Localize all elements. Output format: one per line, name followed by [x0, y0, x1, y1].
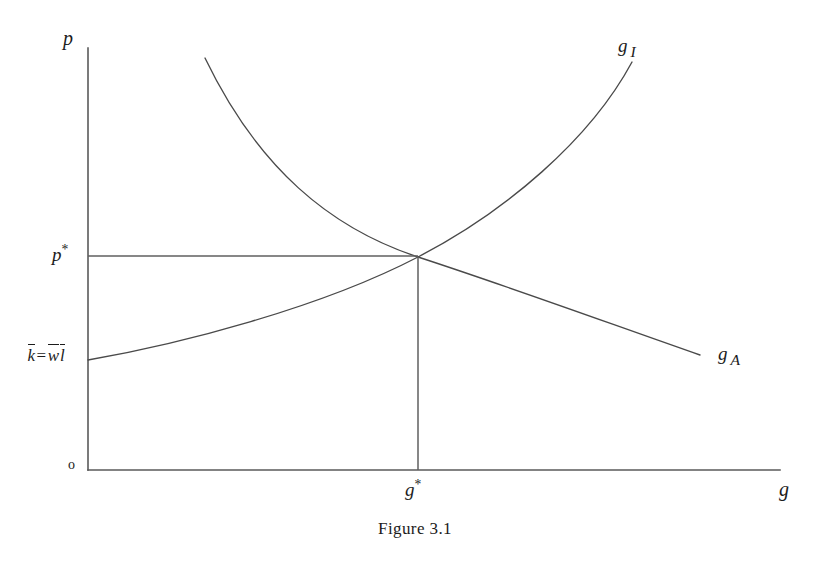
curve-label-g-a: gA	[718, 344, 740, 367]
curve-g-i-subscript: I	[628, 43, 636, 60]
p-star-superscript: *	[62, 242, 69, 257]
k-equals-w-l-label: k=wl	[27, 347, 65, 364]
curve-g-i-base: g	[618, 35, 628, 56]
equals-symbol: =	[36, 346, 48, 365]
curve-g-a-base: g	[718, 343, 728, 364]
p-star-base: p	[52, 244, 62, 265]
l-bar-symbol: l	[59, 347, 65, 364]
g-star-base: g	[405, 479, 415, 500]
curve-g-i	[88, 62, 632, 360]
g-star-label: g*	[405, 478, 421, 499]
x-axis-label: g	[779, 479, 789, 499]
figure-container: p g o p* g* k=wl gI gA Figure 3.1	[0, 0, 830, 571]
g-star-superscript: *	[415, 477, 422, 492]
p-star-label: p*	[52, 243, 68, 264]
y-axis-label: p	[63, 28, 73, 48]
curve-g-a-subscript: A	[728, 351, 741, 368]
curve-label-g-i: gI	[618, 36, 636, 59]
w-bar-symbol: w	[47, 347, 59, 364]
curve-g-a	[205, 58, 700, 355]
origin-label: o	[68, 458, 75, 472]
figure-caption: Figure 3.1	[0, 519, 830, 539]
k-bar-symbol: k	[27, 347, 36, 364]
